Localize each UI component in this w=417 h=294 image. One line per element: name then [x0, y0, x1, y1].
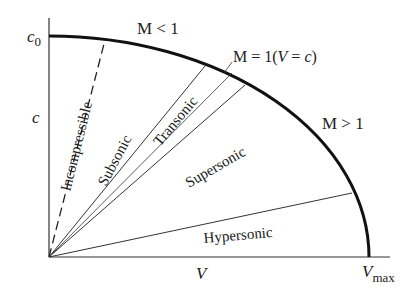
supersonic-hypersonic-boundary [49, 193, 352, 257]
incompressible-label: Incompressible [57, 100, 95, 193]
ellipse-curve [49, 36, 369, 257]
c0-label: c0 [27, 27, 41, 49]
hypersonic-label: Hypersonic [203, 224, 274, 246]
m-equals-1-label: M = 1(V = c) [233, 48, 317, 66]
vmax-label: Vmax [362, 262, 395, 285]
supersonic-label: Supersonic [183, 143, 249, 190]
transonic-label: Transonic [150, 93, 201, 149]
m-less-than-1-label: M < 1 [137, 19, 179, 38]
c-axis-label: c [32, 108, 40, 127]
velocity-regime-diagram: c0 c V Vmax M < 1 M = 1(V = c) M > 1 Inc… [0, 0, 417, 294]
sonic-leader [224, 62, 232, 73]
v-axis-label: V [196, 264, 209, 283]
m-greater-than-1-label: M > 1 [322, 114, 364, 133]
